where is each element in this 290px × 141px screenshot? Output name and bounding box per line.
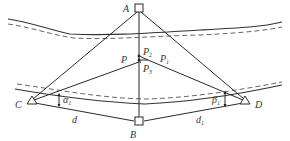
label-b: B — [130, 129, 136, 140]
label-c: C — [15, 99, 22, 110]
label-p1: P1 — [159, 53, 169, 65]
label-p: P — [120, 54, 127, 65]
alpha1-arrowhead-bottom — [58, 104, 61, 107]
survey-diagram: A B C D P P2 P1 P3 α1 β1 d d1 — [0, 0, 290, 141]
line-b-d — [144, 103, 243, 121]
label-a: A — [122, 3, 130, 14]
label-beta1: β1 — [211, 94, 220, 106]
station-a-square-icon — [135, 4, 143, 12]
river-upper-dashed-line — [8, 24, 282, 39]
line-c-p — [34, 62, 139, 100]
station-b-square-icon — [135, 117, 143, 125]
label-d: D — [254, 99, 263, 110]
line-d-p — [148, 60, 243, 100]
label-p2: P2 — [142, 46, 152, 58]
line-c-b — [35, 103, 134, 121]
label-alpha1: α1 — [63, 94, 71, 106]
label-d-distance: d — [72, 114, 78, 125]
label-d1-distance: d1 — [196, 114, 204, 126]
alpha1-arrowhead-top — [58, 93, 61, 96]
label-p3: P3 — [142, 63, 152, 75]
line-a-d — [141, 12, 244, 99]
river-lower-dashed-line — [17, 82, 282, 99]
